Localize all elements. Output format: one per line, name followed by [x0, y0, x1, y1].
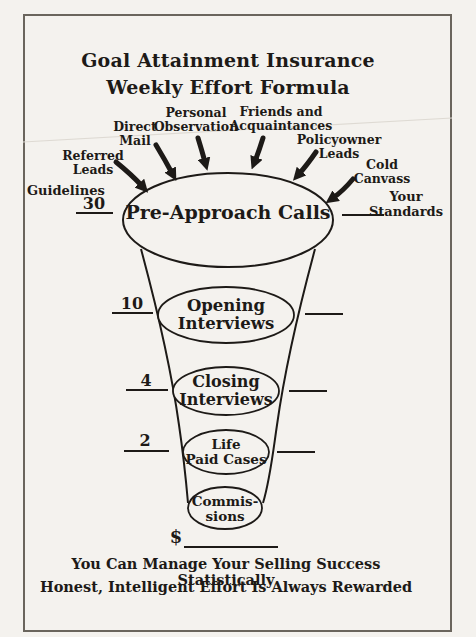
- label-referred-leads: Referred Leads: [56, 149, 130, 176]
- guideline-value-lifepaid: 2: [122, 432, 168, 450]
- guideline-value-opening: 10: [110, 295, 154, 313]
- guideline-value-preapproach: 30: [74, 195, 114, 213]
- label-your-standards: Your Standards: [358, 190, 454, 219]
- label-policyowner-leads: Policyowner Leads: [287, 133, 391, 160]
- arrow-friends-acquaintances-icon: [255, 138, 263, 161]
- stage-life-paid-cases: Life Paid Cases: [183, 437, 269, 467]
- stage-opening-interviews: Opening Interviews: [158, 297, 294, 333]
- footer-line-2: Honest, Intelligent Effort Is Always Rew…: [24, 579, 428, 595]
- page-subtitle: Weekly Effort Formula: [48, 77, 408, 98]
- label-friends-acquaintances: Friends and Acquaintances: [229, 105, 333, 132]
- label-cold-canvass: Cold Canvass: [347, 158, 417, 185]
- stage-commissions: Commis- sions: [187, 494, 263, 524]
- guideline-value-closing: 4: [124, 372, 168, 390]
- scanned-page: Goal Attainment Insurance Weekly Effort …: [0, 0, 476, 637]
- stage-pre-approach-calls: Pre-Approach Calls: [123, 202, 333, 223]
- arrow-personal-observation-icon: [198, 138, 205, 162]
- page-title: Goal Attainment Insurance: [48, 50, 408, 71]
- stage-closing-interviews: Closing Interviews: [172, 373, 280, 408]
- arrow-direct-mail-icon: [156, 145, 172, 173]
- guideline-value-commissions: $: [166, 527, 186, 547]
